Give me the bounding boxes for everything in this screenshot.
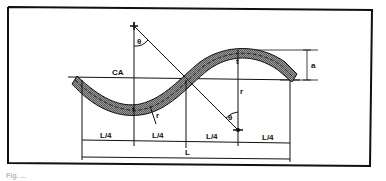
beam-diagram: CA t t θ θ r r a L/4 L/4 L/4 L/4 L	[0, 0, 386, 181]
height-label: a	[311, 61, 316, 70]
figure-caption: Fig. ...	[6, 172, 26, 179]
radius-right-label: r	[240, 87, 243, 96]
center-mark-bottom	[233, 128, 243, 132]
curved-beam	[72, 49, 297, 116]
quarter-1-label: L/4	[100, 131, 112, 140]
radius-left-label: r	[156, 111, 159, 120]
angle-top-label: θ	[137, 37, 141, 46]
total-dimension-line	[82, 157, 290, 159]
thickness-right-label: t	[236, 57, 239, 66]
thickness-left-label: t	[132, 105, 135, 114]
total-length-label: L	[185, 148, 190, 157]
angle-bottom-label: θ	[228, 113, 232, 122]
quarter-4-label: L/4	[262, 133, 274, 142]
chord-axis-label: CA	[112, 68, 124, 77]
quarter-2-label: L/4	[152, 131, 164, 140]
quarter-3-label: L/4	[206, 132, 218, 141]
